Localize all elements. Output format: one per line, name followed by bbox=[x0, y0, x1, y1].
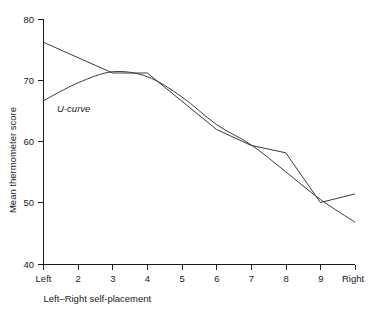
x-tick-label-6: 6 bbox=[214, 273, 219, 284]
x-tick-label-7: 7 bbox=[249, 273, 254, 284]
x-tick-label-left: Left bbox=[36, 273, 52, 284]
chart-figure: 80 70 60 50 40 Left 2 3 4 5 6 7 8 9 Righ… bbox=[0, 0, 378, 316]
axis-spines bbox=[44, 19, 356, 265]
series-line-observed bbox=[44, 42, 356, 202]
x-tick-label-8: 8 bbox=[284, 273, 289, 284]
u-curve-annotation: U-curve bbox=[57, 103, 90, 114]
y-tick-label-60: 60 bbox=[23, 136, 34, 147]
y-tick-label-50: 50 bbox=[23, 197, 34, 208]
y-tick-label-40: 40 bbox=[23, 259, 34, 270]
x-tick-label-4: 4 bbox=[145, 273, 150, 284]
x-axis-title: Left–Right self-placement bbox=[44, 293, 152, 304]
x-tick-label-right: Right bbox=[342, 273, 365, 284]
x-tick-label-9: 9 bbox=[318, 273, 323, 284]
x-tick-label-5: 5 bbox=[180, 273, 185, 284]
y-tick-label-80: 80 bbox=[23, 14, 34, 25]
series-line-u-curve bbox=[44, 71, 356, 222]
y-tick-label-70: 70 bbox=[23, 75, 34, 86]
x-tick-label-3: 3 bbox=[110, 273, 115, 284]
y-axis-title: Mean thermometer score bbox=[7, 107, 18, 213]
line-chart: 80 70 60 50 40 Left 2 3 4 5 6 7 8 9 Righ… bbox=[0, 0, 378, 316]
x-tick-label-2: 2 bbox=[76, 273, 81, 284]
